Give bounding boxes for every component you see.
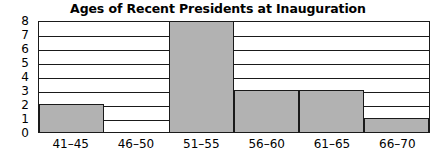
bars-group (39, 22, 429, 132)
y-axis-tick-label: 5 (21, 57, 29, 69)
x-axis-tick-label: 41–45 (38, 136, 103, 158)
bar (299, 90, 364, 132)
x-axis-tick-label: 46–50 (103, 136, 168, 158)
bar-column (39, 22, 104, 132)
plot-area (38, 21, 430, 133)
bar-column (169, 22, 234, 132)
y-axis-tick-label: 8 (21, 15, 29, 27)
y-axis-tick-label: 1 (21, 113, 29, 125)
x-axis-tick-label: 56–60 (234, 136, 299, 158)
bar (364, 118, 429, 132)
bar (169, 21, 234, 132)
bar-column (104, 22, 169, 132)
y-axis-tick-label: 3 (21, 85, 29, 97)
chart-title: Ages of Recent Presidents at Inauguratio… (0, 1, 436, 16)
y-axis-tick-label: 4 (21, 71, 29, 83)
bar-column (299, 22, 364, 132)
bar (234, 90, 299, 132)
bar-column (364, 22, 429, 132)
x-axis: 41–4546–5051–5556–6061–6566–70 (38, 136, 430, 158)
x-axis-tick-label: 66–70 (365, 136, 430, 158)
y-axis-tick-label: 6 (21, 43, 29, 55)
x-axis-tick-label: 61–65 (299, 136, 364, 158)
bar-chart: Ages of Recent Presidents at Inauguratio… (0, 0, 436, 166)
bar-column (234, 22, 299, 132)
y-axis: 012345678 (0, 21, 34, 133)
y-axis-tick-label: 2 (21, 99, 29, 111)
y-axis-tick-label: 0 (21, 127, 29, 139)
y-axis-tick-label: 7 (21, 29, 29, 41)
bar (39, 104, 104, 132)
x-axis-tick-label: 51–55 (169, 136, 234, 158)
